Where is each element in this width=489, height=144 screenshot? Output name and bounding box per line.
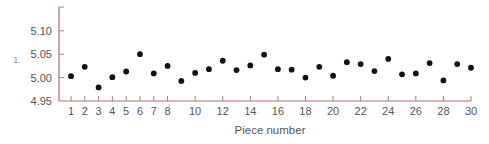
data-point [109,74,115,80]
data-point [316,64,322,70]
data-point [372,68,378,74]
data-point [82,64,88,70]
data-point [441,78,447,84]
data-point [123,69,129,75]
x-tick-label: 10 [189,105,201,117]
x-tick-label: 12 [217,105,229,117]
data-point [289,67,295,73]
y-tick-label: 5.05 [31,48,52,60]
x-tick-label: 26 [410,105,422,117]
data-point [151,70,157,76]
x-tick-label: 16 [272,105,284,117]
x-tick-label: 4 [109,105,115,117]
data-point [234,67,240,73]
x-tick-label: 18 [299,105,311,117]
data-point [68,73,74,79]
data-points [68,51,474,90]
y-axis-stray-label: 1. [13,55,21,65]
scatter-chart: 4.955.005.055.10 12345678101214161820222… [0,0,489,144]
data-point [206,66,212,72]
x-tick-label: 8 [164,105,170,117]
x-tick-label: 5 [123,105,129,117]
data-point [358,61,364,67]
x-tick-label: 30 [465,105,477,117]
x-tick-label: 1 [68,105,74,117]
x-tick-label: 7 [151,105,157,117]
data-point [399,71,405,77]
data-point [275,66,281,72]
data-point [165,63,171,69]
data-point [303,75,309,81]
x-tick-label: 2 [82,105,88,117]
data-point [137,51,143,57]
x-tick-label: 24 [382,105,394,117]
y-tick-label: 5.00 [31,72,52,84]
data-point [247,63,253,69]
x-tick-label: 28 [437,105,449,117]
data-point [385,56,391,62]
data-point [344,59,350,65]
x-tick-label: 20 [327,105,339,117]
x-tick-label: 14 [244,105,256,117]
y-axis: 4.955.005.055.10 [31,7,64,107]
y-tick-label: 5.10 [31,25,52,37]
data-point [220,58,226,64]
data-point [96,85,102,91]
data-point [413,70,419,76]
data-point [427,60,433,66]
data-point [261,52,267,58]
x-tick-label: 3 [96,105,102,117]
data-point [192,70,198,76]
y-tick-label: 4.95 [31,95,52,107]
data-point [178,78,184,84]
x-tick-label: 6 [137,105,143,117]
x-tick-label: 22 [355,105,367,117]
data-point [468,65,474,71]
x-axis-title: Piece number [235,124,306,136]
x-axis: 123456781012141618202224262830 [59,96,477,117]
data-point [330,73,336,79]
data-point [454,61,460,67]
